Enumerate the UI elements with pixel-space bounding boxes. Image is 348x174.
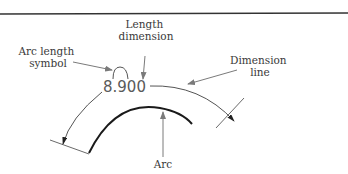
top-rule [0, 13, 348, 14]
object-arc [89, 107, 192, 153]
arc-dimension-diagram: 8.900 Length dimension Arc length symbol… [0, 0, 348, 174]
dimension-line-left [63, 92, 102, 144]
dimension-line-leader [188, 70, 237, 84]
arc-label: Arc [153, 158, 173, 170]
left-extension-line [50, 140, 89, 154]
right-extension-line [216, 98, 244, 128]
length-dimension-leader [143, 56, 145, 79]
dimension-line-label: Dimension line [230, 54, 290, 78]
arc-length-symbol-leader [73, 62, 112, 70]
length-dimension-label: Length dimension [119, 18, 174, 42]
arc-length-symbol-label: Arc length symbol [17, 45, 77, 69]
dimension-value: 8.900 [103, 78, 146, 96]
